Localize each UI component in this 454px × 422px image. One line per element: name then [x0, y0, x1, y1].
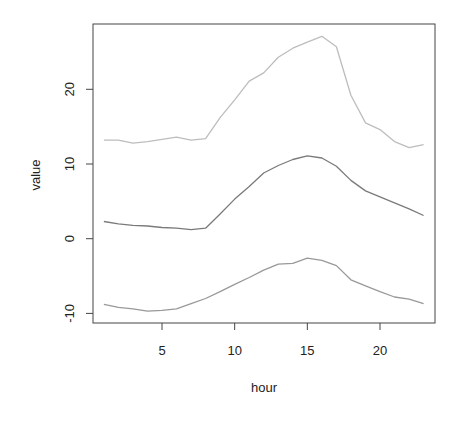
- series-layer: [104, 36, 424, 311]
- x-tick-label: 5: [158, 343, 165, 358]
- series-line-upper: [104, 36, 424, 147]
- y-tick-label: 20: [62, 82, 77, 96]
- y-tick-label: -10: [62, 304, 77, 323]
- y-axis: -1001020: [62, 82, 93, 323]
- x-axis: 5101520: [158, 323, 387, 358]
- x-tick-label: 20: [373, 343, 387, 358]
- x-tick-label: 10: [227, 343, 241, 358]
- y-tick-label: 10: [62, 157, 77, 171]
- line-chart: 5101520 -1001020 hour value: [0, 0, 454, 422]
- y-axis-label: value: [28, 159, 43, 190]
- series-line-lower: [104, 258, 424, 311]
- x-tick-label: 15: [300, 343, 314, 358]
- x-axis-label: hour: [251, 380, 278, 395]
- series-line-middle: [104, 156, 424, 230]
- y-tick-label: 0: [62, 235, 77, 242]
